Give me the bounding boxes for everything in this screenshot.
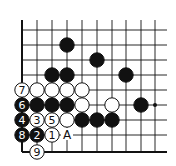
white-stone-icon bbox=[30, 83, 44, 97]
move-number-label: 5 bbox=[49, 114, 56, 127]
white-stone bbox=[30, 83, 44, 97]
star-points bbox=[153, 103, 157, 107]
stones: 764358219 bbox=[15, 38, 148, 159]
white-stone bbox=[75, 98, 89, 112]
move-number-label: 3 bbox=[34, 114, 41, 127]
move-number-label: 2 bbox=[34, 129, 41, 142]
white-stone bbox=[60, 113, 74, 127]
white-stone-icon bbox=[75, 98, 89, 112]
black-stone-icon bbox=[45, 98, 59, 112]
white-stone bbox=[45, 83, 59, 97]
white-stone-7: 7 bbox=[15, 83, 29, 97]
black-stone-icon bbox=[90, 113, 104, 127]
black-stone bbox=[75, 113, 89, 127]
black-stone bbox=[90, 113, 104, 127]
black-stone bbox=[90, 53, 104, 67]
move-number-label: 6 bbox=[19, 99, 26, 112]
black-stone-4: 4 bbox=[15, 113, 29, 127]
black-stone-icon bbox=[30, 98, 44, 112]
point-marker-label: A bbox=[63, 128, 72, 142]
black-stone-icon bbox=[45, 68, 59, 82]
black-stone bbox=[30, 98, 44, 112]
black-stone-8: 8 bbox=[15, 128, 29, 142]
black-stone bbox=[119, 68, 133, 82]
black-stone-icon bbox=[90, 53, 104, 67]
move-number-label: 1 bbox=[49, 129, 56, 142]
white-stone-1: 1 bbox=[45, 128, 59, 142]
star-point-icon bbox=[153, 103, 157, 107]
black-stone-icon bbox=[119, 68, 133, 82]
move-number-label: 4 bbox=[19, 114, 26, 127]
black-stone bbox=[60, 68, 74, 82]
black-stone-icon bbox=[134, 98, 148, 112]
white-stone-3: 3 bbox=[30, 113, 44, 127]
black-stone bbox=[105, 113, 119, 127]
black-stone-icon bbox=[60, 68, 74, 82]
move-number-label: 8 bbox=[19, 129, 26, 142]
white-stone bbox=[105, 98, 119, 112]
black-stone bbox=[134, 98, 148, 112]
white-stone-icon bbox=[75, 83, 89, 97]
black-stone-icon bbox=[105, 113, 119, 127]
white-stone-icon bbox=[105, 98, 119, 112]
white-stone bbox=[60, 83, 74, 97]
move-number-label: 7 bbox=[19, 84, 26, 97]
white-stone bbox=[75, 83, 89, 97]
white-stone-icon bbox=[45, 83, 59, 97]
black-stone-6: 6 bbox=[15, 98, 29, 112]
white-stone-icon bbox=[60, 113, 74, 127]
black-stone bbox=[45, 98, 59, 112]
black-stone-2: 2 bbox=[30, 128, 44, 142]
white-stone-5: 5 bbox=[45, 113, 59, 127]
markers: A bbox=[61, 128, 73, 142]
black-stone-icon bbox=[75, 113, 89, 127]
move-number-label: 9 bbox=[34, 146, 41, 159]
go-board-diagram: 764358219 A bbox=[0, 0, 176, 166]
white-stone-9: 9 bbox=[30, 145, 44, 159]
black-stone bbox=[60, 98, 74, 112]
white-stone-icon bbox=[60, 83, 74, 97]
black-stone bbox=[60, 38, 74, 52]
black-stone-icon bbox=[60, 98, 74, 112]
black-stone bbox=[45, 68, 59, 82]
black-stone-icon bbox=[60, 38, 74, 52]
